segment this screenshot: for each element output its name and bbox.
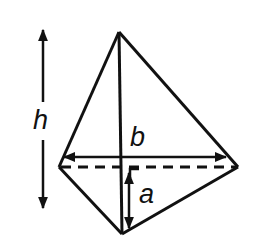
- a-reference-tick: [130, 169, 139, 178]
- edge-apex-bottom: [119, 32, 122, 234]
- a-label: a: [139, 181, 154, 208]
- h-label: h: [33, 107, 48, 134]
- edge-apex-left: [59, 32, 119, 167]
- edge-left-bottom: [59, 167, 122, 234]
- b-label: b: [130, 124, 145, 151]
- tetrahedron-diagram: h b a: [0, 0, 253, 246]
